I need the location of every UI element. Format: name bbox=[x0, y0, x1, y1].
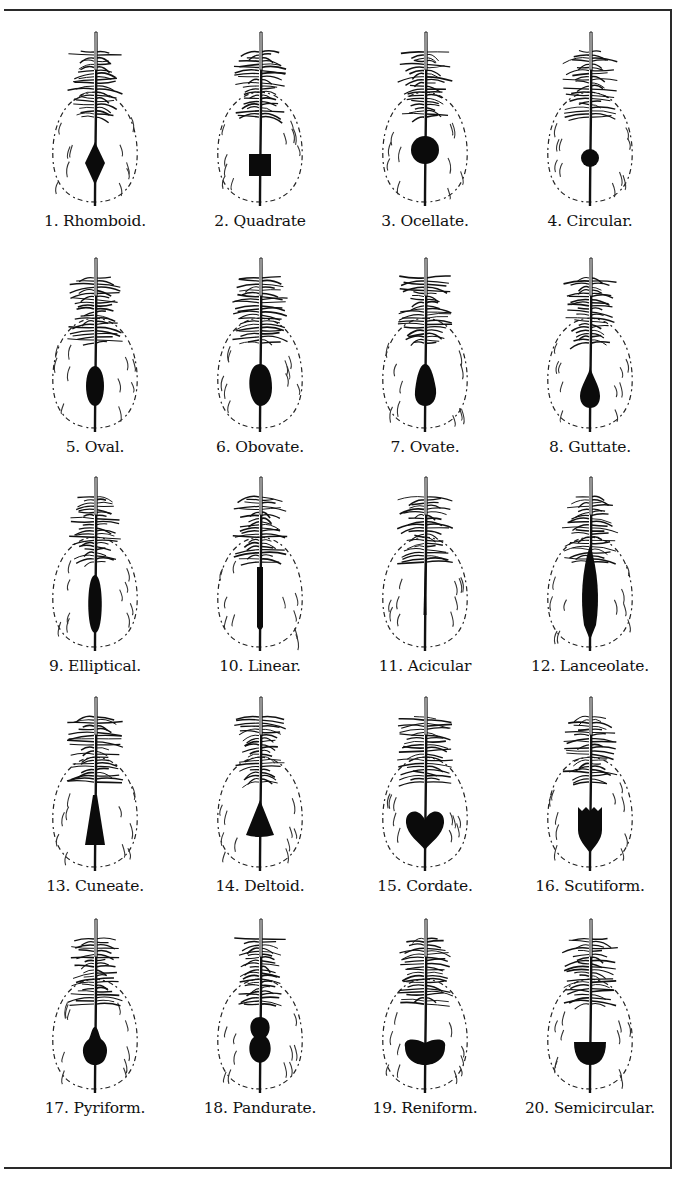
marking-circular bbox=[581, 149, 599, 167]
feather-oval: 5. Oval. bbox=[10, 244, 180, 464]
feather-guttate: 8. Guttate. bbox=[505, 244, 675, 464]
quill-tip bbox=[590, 477, 592, 515]
marking-quadrate bbox=[249, 154, 271, 176]
marking-oval bbox=[86, 366, 104, 406]
feather-illustration bbox=[35, 256, 155, 436]
marking-elliptical bbox=[88, 575, 102, 633]
quill-tip bbox=[425, 919, 427, 957]
quill-tip bbox=[260, 697, 262, 735]
feather-illustration bbox=[200, 917, 320, 1097]
quill-tip bbox=[425, 258, 427, 296]
quill-tip bbox=[260, 32, 262, 70]
quill-tip bbox=[95, 919, 97, 957]
quill-tip bbox=[425, 697, 427, 735]
feather-label: 16. Scutiform. bbox=[505, 877, 675, 895]
marking-semicircular bbox=[574, 1042, 606, 1065]
feather-label: 2. Quadrate bbox=[175, 212, 345, 230]
feather-elliptical: 9. Elliptical. bbox=[10, 463, 180, 683]
marking-pandurate bbox=[249, 1017, 270, 1063]
feather-cuneate: 13. Cuneate. bbox=[10, 683, 180, 903]
feather-label: 19. Reniform. bbox=[340, 1099, 510, 1117]
feather-acicular: 11. Acicular bbox=[340, 463, 510, 683]
marking-ovate bbox=[415, 364, 436, 406]
feather-rhomboid: 1. Rhomboid. bbox=[10, 18, 180, 238]
feather-label: 6. Obovate. bbox=[175, 438, 345, 456]
quill-tip bbox=[425, 477, 427, 515]
feather-reniform: 19. Reniform. bbox=[340, 905, 510, 1125]
quill-tip bbox=[260, 258, 262, 296]
feather-label: 9. Elliptical. bbox=[10, 657, 180, 675]
feather-label: 1. Rhomboid. bbox=[10, 212, 180, 230]
feather-pandurate: 18. Pandurate. bbox=[175, 905, 345, 1125]
quill-tip bbox=[260, 919, 262, 957]
feather-label: 3. Ocellate. bbox=[340, 212, 510, 230]
feather-label: 10. Linear. bbox=[175, 657, 345, 675]
marking-reniform bbox=[405, 1040, 446, 1065]
feather-illustration bbox=[200, 695, 320, 875]
feather-label: 7. Ovate. bbox=[340, 438, 510, 456]
feather-label: 18. Pandurate. bbox=[175, 1099, 345, 1117]
feather-illustration bbox=[35, 695, 155, 875]
marking-pyriform bbox=[83, 1027, 107, 1065]
marking-rhomboid bbox=[85, 142, 105, 185]
feather-label: 15. Cordate. bbox=[340, 877, 510, 895]
feather-illustration bbox=[35, 917, 155, 1097]
feather-ocellate: 3. Ocellate. bbox=[340, 18, 510, 238]
feather-semicircular: 20. Semicircular. bbox=[505, 905, 675, 1125]
marking-cuneate bbox=[85, 795, 105, 845]
feather-illustration bbox=[530, 695, 650, 875]
feather-illustration bbox=[365, 695, 485, 875]
feather-illustration bbox=[200, 256, 320, 436]
feather-illustration bbox=[530, 917, 650, 1097]
feather-linear: 10. Linear. bbox=[175, 463, 345, 683]
feather-illustration bbox=[365, 917, 485, 1097]
feather-label: 11. Acicular bbox=[340, 657, 510, 675]
feather-quadrate: 2. Quadrate bbox=[175, 18, 345, 238]
feather-illustration bbox=[200, 30, 320, 210]
quill-tip bbox=[590, 32, 592, 70]
feather-illustration bbox=[365, 256, 485, 436]
marking-linear bbox=[257, 567, 263, 630]
feather-scutiform: 16. Scutiform. bbox=[505, 683, 675, 903]
feather-pyriform: 17. Pyriform. bbox=[10, 905, 180, 1125]
feather-circular: 4. Circular. bbox=[505, 18, 675, 238]
marking-deltoid bbox=[246, 800, 274, 837]
marking-guttate bbox=[580, 366, 600, 408]
feather-ovate: 7. Ovate. bbox=[340, 244, 510, 464]
feather-label: 20. Semicircular. bbox=[505, 1099, 675, 1117]
feather-cordate: 15. Cordate. bbox=[340, 683, 510, 903]
feather-label: 5. Oval. bbox=[10, 438, 180, 456]
marking-obovate bbox=[249, 364, 272, 406]
quill-tip bbox=[260, 477, 262, 515]
feather-label: 8. Guttate. bbox=[505, 438, 675, 456]
feather-label: 14. Deltoid. bbox=[175, 877, 345, 895]
quill-tip bbox=[95, 258, 97, 296]
feather-illustration bbox=[200, 475, 320, 655]
marking-ocellate bbox=[411, 136, 439, 164]
feather-label: 4. Circular. bbox=[505, 212, 675, 230]
feather-illustration bbox=[365, 30, 485, 210]
feather-label: 13. Cuneate. bbox=[10, 877, 180, 895]
feather-lanceolate: 12. Lanceolate. bbox=[505, 463, 675, 683]
feather-deltoid: 14. Deltoid. bbox=[175, 683, 345, 903]
feather-illustration bbox=[35, 30, 155, 210]
quill-tip bbox=[425, 32, 427, 70]
feather-illustration bbox=[365, 475, 485, 655]
quill-tip bbox=[590, 258, 592, 296]
quill-tip bbox=[590, 697, 592, 735]
feather-illustration bbox=[530, 475, 650, 655]
feather-illustration bbox=[530, 256, 650, 436]
feather-label: 12. Lanceolate. bbox=[505, 657, 675, 675]
feather-label: 17. Pyriform. bbox=[10, 1099, 180, 1117]
quill-tip bbox=[95, 477, 97, 515]
quill-tip bbox=[95, 697, 97, 735]
quill-tip bbox=[590, 919, 592, 957]
feather-obovate: 6. Obovate. bbox=[175, 244, 345, 464]
feather-illustration bbox=[530, 30, 650, 210]
marking-scutiform bbox=[578, 807, 602, 853]
quill-tip bbox=[95, 32, 97, 70]
feather-illustration bbox=[35, 475, 155, 655]
